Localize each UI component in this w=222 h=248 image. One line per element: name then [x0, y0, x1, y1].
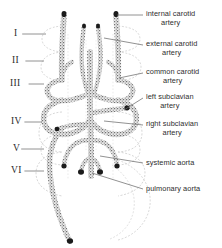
- leader-common-carotid-artery: [119, 73, 143, 78]
- label-external-carotid-artery: external carotid artery: [146, 40, 197, 57]
- leader-external-carotid-artery: [104, 38, 143, 45]
- label-common-carotid-artery: common carotid artery: [146, 68, 199, 85]
- arch-numeral-ii: II: [12, 55, 19, 65]
- leader-pulmonary-aorta: [92, 173, 143, 189]
- arch-numeral-vi: VI: [11, 165, 22, 175]
- label-pulmonary-aorta: pulmonary aorta: [146, 185, 200, 194]
- label-left-subclavian-artery: left subclavian artery: [146, 93, 194, 110]
- arch-numeral-i: I: [14, 28, 17, 38]
- aortic-arch-diagram: IIIIIIIVVVI internal carotid arteryexter…: [0, 0, 222, 248]
- numeral-leader-lines: [21, 34, 46, 171]
- label-systemic-aorta: systemic aorta: [146, 159, 194, 168]
- leader-systemic-aorta: [100, 156, 143, 163]
- arch-numeral-iii: III: [10, 78, 20, 88]
- arch-numeral-iv: IV: [11, 116, 22, 126]
- arch-numeral-v: V: [13, 143, 20, 153]
- label-right-subclavian-artery: right subclavian artery: [146, 120, 198, 137]
- label-internal-carotid-artery: internal carotid artery: [146, 10, 195, 27]
